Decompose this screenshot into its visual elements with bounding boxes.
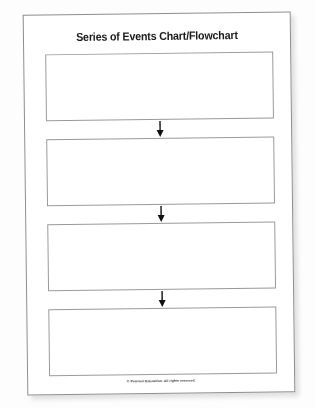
flowchart-connector-1 <box>46 119 274 140</box>
flowchart-box-1[interactable] <box>45 52 274 122</box>
flowchart-box-4[interactable] <box>48 307 277 377</box>
worksheet-page: Series of Events Chart/Flowchart <box>23 11 296 395</box>
flowchart-box-3[interactable] <box>47 222 276 292</box>
screenshot-viewport: Series of Events Chart/Flowchart <box>0 0 315 408</box>
flowchart <box>45 52 277 377</box>
arrow-down-icon <box>155 121 164 137</box>
worksheet-content: Series of Events Chart/Flowchart <box>24 12 295 394</box>
flowchart-connector-2 <box>47 204 275 225</box>
arrow-down-icon <box>158 291 167 307</box>
arrow-down-icon <box>157 206 166 222</box>
flowchart-connector-3 <box>48 289 276 310</box>
flowchart-box-2[interactable] <box>46 137 275 207</box>
copyright-notice: © Pearson Education. All rights reserved… <box>28 377 294 384</box>
page-title: Series of Events Chart/Flowchart <box>33 29 281 44</box>
